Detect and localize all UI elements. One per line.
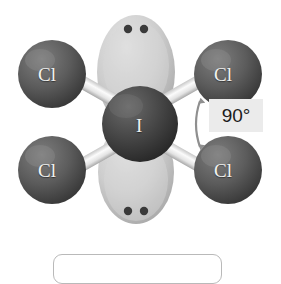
electron-dot <box>124 25 132 33</box>
electron-dot <box>140 207 148 215</box>
caption-panel <box>53 254 222 284</box>
electron-dot <box>140 25 148 33</box>
chlorine-bottom-left <box>18 136 86 204</box>
iodine-atom <box>102 86 178 162</box>
chlorine-top-left <box>18 40 86 108</box>
chlorine-bottom-right <box>194 136 262 204</box>
bond-angle-double-arrow <box>196 101 200 147</box>
chlorine-top-right <box>194 40 262 108</box>
bond-angle-label: 90° <box>222 105 251 127</box>
electron-dot <box>124 207 132 215</box>
bond-angle-badge: 90° <box>209 99 263 132</box>
